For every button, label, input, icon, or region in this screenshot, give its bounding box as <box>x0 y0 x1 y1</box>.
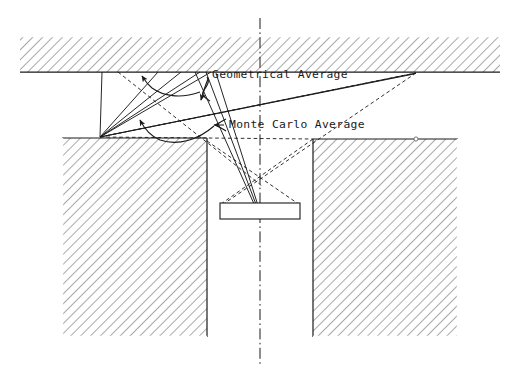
geometrical-average-label: Geometrical Average <box>212 68 348 81</box>
monte-carlo-average-label: Monte Carlo Average <box>229 118 365 131</box>
left-block <box>62 138 207 337</box>
figure-canvas: Geometrical Average Monte Carlo Average <box>0 0 514 373</box>
geometrical-average-leader <box>142 76 210 101</box>
ray-diagram-svg: Geometrical Average Monte Carlo Average <box>0 0 514 373</box>
right-block <box>313 137 458 337</box>
detector-plate <box>220 203 300 219</box>
